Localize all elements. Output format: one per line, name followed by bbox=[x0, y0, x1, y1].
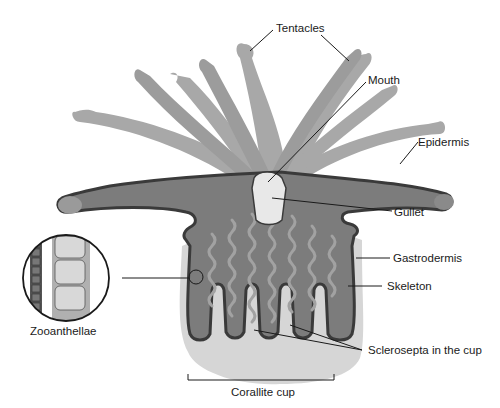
label-zooanthellae: Zooanthellae bbox=[30, 325, 97, 337]
tentacle-tip-left bbox=[58, 196, 82, 214]
label-skeleton: Skeleton bbox=[387, 280, 432, 292]
coral-polyp-diagram: Tentacles Mouth Epidermis Gullet Gastrod… bbox=[0, 0, 500, 408]
label-gullet: Gullet bbox=[394, 206, 425, 218]
label-gastrodermis: Gastrodermis bbox=[393, 252, 462, 264]
label-tentacles: Tentacles bbox=[276, 22, 325, 34]
label-corallite-cup: Corallite cup bbox=[231, 386, 295, 398]
zooanthellae-inset bbox=[20, 232, 120, 332]
label-sclerosepta: Sclerosepta in the cup bbox=[368, 344, 482, 356]
label-mouth: Mouth bbox=[368, 74, 400, 86]
gullet-shape bbox=[252, 172, 286, 225]
tentacle-tip-right bbox=[434, 194, 454, 210]
label-epidermis: Epidermis bbox=[418, 136, 469, 148]
